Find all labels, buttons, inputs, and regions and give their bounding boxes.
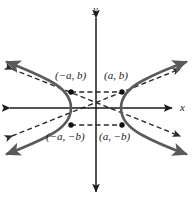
point-label-a-b: (a, b) xyxy=(104,70,128,81)
hyperbola-figure: y x (−a, b) (a, b) (−a, −b) (a, −b) xyxy=(0,0,195,206)
y-axis-label: y xyxy=(93,4,98,15)
point-neg-a-b-dot xyxy=(68,89,73,94)
right-branch-upper xyxy=(121,62,186,108)
hyperbola-canvas xyxy=(0,0,195,206)
point-neg-a-neg-b-dot xyxy=(68,122,73,127)
x-axis-label: x xyxy=(180,102,185,113)
right-branch-lower xyxy=(121,108,186,154)
point-label-a-neg-b: (a, −b) xyxy=(99,131,130,142)
point-label-neg-a-neg-b: (−a, −b) xyxy=(46,131,85,142)
point-a-b-dot xyxy=(119,89,124,94)
point-a-neg-b-dot xyxy=(119,122,124,127)
point-label-neg-a-b: (−a, b) xyxy=(55,70,86,81)
